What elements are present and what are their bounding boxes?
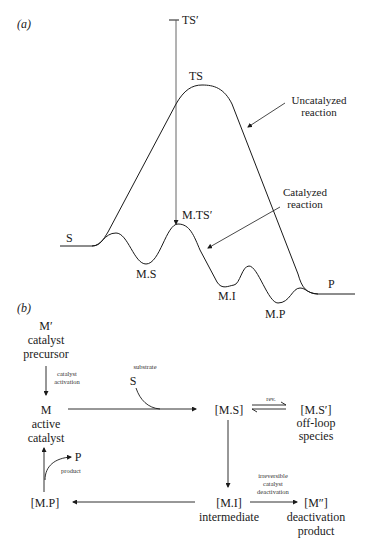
m-prime-line1: catalyst [28,333,65,347]
ms-prime-symbol: [M.S′] [301,403,332,417]
ms-prime-line2: species [299,429,334,443]
deactivation-line2: catalyst [263,480,283,487]
ts-label: TS [189,69,203,83]
catalysis-diagram: (a) TS′ TS S M.TS′ M.S M.I M.P P Uncatal… [0,0,369,546]
ms-prime-line1: off-loop [296,416,335,430]
catalyzed-annotation-line1: Catalyzed [283,186,327,198]
m-i-label: M.I [218,289,236,303]
uncatalyzed-annotation-line1: Uncatalyzed [292,94,347,106]
catalyzed-annotation-line2: reaction [287,198,323,210]
deactivation-line3: deactivation [257,488,290,495]
panel-a-label: (a) [17,17,31,31]
m-p-label: M.P [265,307,286,321]
m-line2: catalyst [28,431,65,445]
product-caption: product [61,467,81,474]
activation-line2: activation [54,378,80,385]
m-prime-symbol: M′ [39,319,53,333]
rev-label: rev. [266,395,276,402]
m-ts-prime-label: M.TS′ [182,208,213,222]
m-double-prime-line2: product [298,524,335,538]
m-s-label: M.S [136,267,156,281]
mi-line1: intermediate [199,510,259,524]
substrate-entry-curve [136,388,160,409]
substrate-caption: substrate [133,363,156,370]
product-symbol: P [75,450,82,464]
uncatalyzed-annotation-line2: reaction [301,106,337,118]
activation-line1: catalyst [57,370,77,377]
mp-symbol: [M.P] [31,496,59,510]
ts-prime-energy-drop-arrow [169,20,179,224]
ts-prime-label: TS′ [182,13,199,27]
equilibrium-arrows [252,402,286,412]
ms-symbol: [M.S] [215,403,243,417]
s-label: S [66,231,73,245]
catalyzed-pointer-arrow [208,207,280,248]
m-symbol: M [41,403,52,417]
m-double-prime-symbol: [M″] [304,496,328,510]
p-label: P [328,277,335,291]
substrate-symbol: S [130,374,137,388]
m-line1: active [32,417,61,431]
m-prime-line2: precursor [23,347,68,361]
uncatalyzed-pointer-arrow [248,103,285,127]
panel-b-label: (b) [17,301,31,315]
deactivation-line1: irreversible [258,472,288,479]
m-double-prime-line1: deactivation [287,510,346,524]
mi-symbol: [M.I] [216,496,242,510]
